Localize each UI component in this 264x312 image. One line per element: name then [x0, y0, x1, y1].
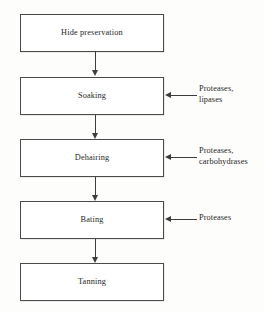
- process-box-soaking: Soaking: [20, 77, 164, 115]
- arrow-shaft: [171, 157, 197, 158]
- process-box-dehairing: Dehairing: [20, 139, 164, 177]
- process-flowchart: Hide preservation Soaking Proteases, lip…: [0, 0, 264, 312]
- arrow-shaft: [95, 115, 96, 135]
- enzyme-label-soaking: Proteases, lipases: [199, 84, 233, 105]
- enzyme-label-line: Proteases: [199, 213, 231, 224]
- process-box-label: Soaking: [21, 91, 163, 101]
- flow-arrow-down-icon: [90, 115, 101, 140]
- enzyme-arrow-left-icon-bating: [165, 214, 197, 225]
- enzyme-label-line: Proteases,: [199, 84, 233, 95]
- arrow-head: [165, 216, 171, 222]
- enzyme-label-line: lipases: [199, 95, 233, 106]
- enzyme-arrow-left-icon-dehairing: [165, 152, 197, 163]
- process-box-label: Tanning: [21, 277, 163, 287]
- enzyme-label-line: carbohydrases: [199, 157, 248, 168]
- flow-arrow-down-icon: [90, 52, 101, 77]
- process-box-label: Dehairing: [21, 153, 163, 163]
- arrow-head: [92, 70, 98, 76]
- enzyme-label-bating: Proteases: [199, 213, 231, 224]
- flow-arrow-down-icon: [90, 239, 101, 264]
- arrow-shaft: [95, 239, 96, 259]
- arrow-shaft: [95, 52, 96, 72]
- enzyme-arrow-left-icon-soaking: [165, 90, 197, 101]
- process-box-label: Bating: [21, 215, 163, 225]
- arrow-shaft: [95, 177, 96, 197]
- arrow-head: [165, 92, 171, 98]
- flow-arrow-down-icon: [90, 177, 101, 202]
- enzyme-label-dehairing: Proteases, carbohydrases: [199, 146, 248, 167]
- process-box-label: Hide preservation: [21, 28, 163, 38]
- process-box-hide-preservation: Hide preservation: [20, 14, 164, 52]
- enzyme-label-line: Proteases,: [199, 146, 248, 157]
- arrow-shaft: [171, 219, 197, 220]
- arrow-head: [165, 154, 171, 160]
- arrow-shaft: [171, 95, 197, 96]
- process-box-tanning: Tanning: [20, 263, 164, 301]
- process-box-bating: Bating: [20, 201, 164, 239]
